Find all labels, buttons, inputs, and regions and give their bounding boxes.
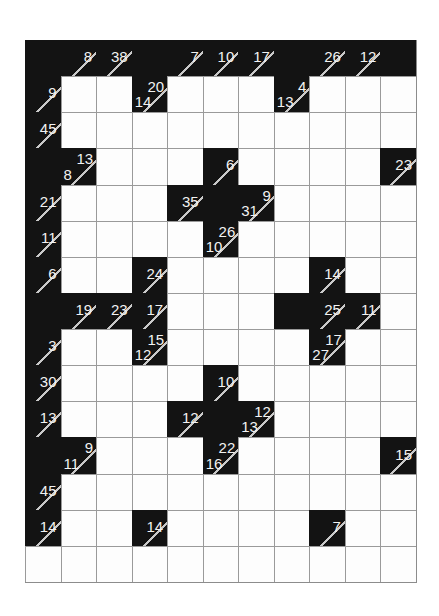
entry-cell-r2-c4[interactable] [167,112,203,148]
entry-cell-r5-c3[interactable] [132,221,168,257]
entry-cell-r11-c4[interactable] [167,437,203,473]
entry-cell-r5-c1[interactable] [61,221,97,257]
entry-cell-r4-c7[interactable] [274,185,310,221]
entry-cell-r8-c2[interactable] [96,329,132,365]
entry-cell-r4-c9[interactable] [345,185,381,221]
entry-cell-r12-c9[interactable] [345,474,381,510]
entry-cell-r8-c6[interactable] [238,329,274,365]
entry-cell-r13-c7[interactable] [274,510,310,546]
entry-cell-r6-c10[interactable] [380,257,416,293]
entry-cell-r11-c2[interactable] [96,437,132,473]
entry-cell-r14-c4[interactable] [167,546,203,582]
entry-cell-r9-c8[interactable] [309,365,345,401]
entry-cell-r13-c10[interactable] [380,510,416,546]
entry-cell-r1-c5[interactable] [203,76,239,112]
entry-cell-r1-c9[interactable] [345,76,381,112]
entry-cell-r1-c8[interactable] [309,76,345,112]
entry-cell-r1-c4[interactable] [167,76,203,112]
entry-cell-r11-c8[interactable] [309,437,345,473]
entry-cell-r13-c9[interactable] [345,510,381,546]
entry-cell-r14-c1[interactable] [61,546,97,582]
entry-cell-r14-c5[interactable] [203,546,239,582]
entry-cell-r11-c3[interactable] [132,437,168,473]
entry-cell-r6-c7[interactable] [274,257,310,293]
entry-cell-r9-c2[interactable] [96,365,132,401]
entry-cell-r5-c6[interactable] [238,221,274,257]
entry-cell-r2-c3[interactable] [132,112,168,148]
entry-cell-r6-c5[interactable] [203,257,239,293]
entry-cell-r1-c1[interactable] [61,76,97,112]
entry-cell-r9-c4[interactable] [167,365,203,401]
entry-cell-r1-c2[interactable] [96,76,132,112]
entry-cell-r11-c7[interactable] [274,437,310,473]
entry-cell-r10-c10[interactable] [380,401,416,437]
entry-cell-r14-c3[interactable] [132,546,168,582]
entry-cell-r9-c7[interactable] [274,365,310,401]
entry-cell-r10-c9[interactable] [345,401,381,437]
entry-cell-r12-c3[interactable] [132,474,168,510]
entry-cell-r9-c10[interactable] [380,365,416,401]
entry-cell-r12-c10[interactable] [380,474,416,510]
entry-cell-r9-c9[interactable] [345,365,381,401]
entry-cell-r12-c6[interactable] [238,474,274,510]
entry-cell-r5-c2[interactable] [96,221,132,257]
entry-cell-r2-c6[interactable] [238,112,274,148]
entry-cell-r2-c9[interactable] [345,112,381,148]
entry-cell-r14-c10[interactable] [380,546,416,582]
entry-cell-r12-c4[interactable] [167,474,203,510]
entry-cell-r3-c9[interactable] [345,148,381,184]
entry-cell-r12-c5[interactable] [203,474,239,510]
entry-cell-r3-c2[interactable] [96,148,132,184]
entry-cell-r7-c10[interactable] [380,293,416,329]
entry-cell-r1-c10[interactable] [380,76,416,112]
entry-cell-r13-c2[interactable] [96,510,132,546]
entry-cell-r5-c7[interactable] [274,221,310,257]
entry-cell-r7-c4[interactable] [167,293,203,329]
entry-cell-r12-c8[interactable] [309,474,345,510]
entry-cell-r10-c8[interactable] [309,401,345,437]
entry-cell-r8-c9[interactable] [345,329,381,365]
entry-cell-r4-c10[interactable] [380,185,416,221]
entry-cell-r2-c7[interactable] [274,112,310,148]
entry-cell-r3-c6[interactable] [238,148,274,184]
entry-cell-r6-c4[interactable] [167,257,203,293]
entry-cell-r3-c3[interactable] [132,148,168,184]
entry-cell-r3-c4[interactable] [167,148,203,184]
entry-cell-r11-c9[interactable] [345,437,381,473]
entry-cell-r8-c4[interactable] [167,329,203,365]
entry-cell-r4-c8[interactable] [309,185,345,221]
entry-cell-r5-c8[interactable] [309,221,345,257]
entry-cell-r12-c7[interactable] [274,474,310,510]
entry-cell-r2-c8[interactable] [309,112,345,148]
entry-cell-r12-c1[interactable] [61,474,97,510]
entry-cell-r4-c2[interactable] [96,185,132,221]
entry-cell-r1-c6[interactable] [238,76,274,112]
kakuro-grid[interactable]: 8387101726129201441345138623213593111261… [25,40,417,583]
entry-cell-r6-c6[interactable] [238,257,274,293]
entry-cell-r14-c7[interactable] [274,546,310,582]
entry-cell-r2-c1[interactable] [61,112,97,148]
entry-cell-r4-c1[interactable] [61,185,97,221]
entry-cell-r5-c10[interactable] [380,221,416,257]
entry-cell-r11-c6[interactable] [238,437,274,473]
entry-cell-r3-c8[interactable] [309,148,345,184]
entry-cell-r6-c1[interactable] [61,257,97,293]
entry-cell-r9-c3[interactable] [132,365,168,401]
entry-cell-r7-c6[interactable] [238,293,274,329]
entry-cell-r6-c2[interactable] [96,257,132,293]
entry-cell-r4-c3[interactable] [132,185,168,221]
entry-cell-r13-c6[interactable] [238,510,274,546]
entry-cell-r10-c1[interactable] [61,401,97,437]
entry-cell-r10-c7[interactable] [274,401,310,437]
entry-cell-r10-c3[interactable] [132,401,168,437]
entry-cell-r3-c7[interactable] [274,148,310,184]
entry-cell-r9-c1[interactable] [61,365,97,401]
entry-cell-r8-c5[interactable] [203,329,239,365]
entry-cell-r6-c9[interactable] [345,257,381,293]
entry-cell-r5-c9[interactable] [345,221,381,257]
entry-cell-r14-c6[interactable] [238,546,274,582]
entry-cell-r8-c7[interactable] [274,329,310,365]
entry-cell-r14-c0[interactable] [25,546,61,582]
entry-cell-r8-c10[interactable] [380,329,416,365]
entry-cell-r2-c5[interactable] [203,112,239,148]
